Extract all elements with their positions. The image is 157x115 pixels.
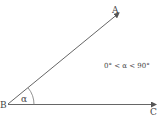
angle-diagram: A B C α 0° < α < 90° <box>0 0 157 115</box>
point-label-b: B <box>0 100 7 110</box>
diagram-canvas: A B C α 0° < α < 90° <box>0 0 157 115</box>
angle-condition: 0° < α < 90° <box>104 62 150 70</box>
point-label-a: A <box>111 5 119 15</box>
angle-arc <box>28 88 34 105</box>
point-label-c: C <box>150 107 157 115</box>
angle-label: α <box>21 94 27 104</box>
ray-ba <box>8 13 119 104</box>
